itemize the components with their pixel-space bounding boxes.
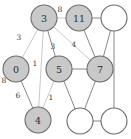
graph-node-unlabeled[interactable]	[101, 5, 127, 31]
graph-edge	[22, 29, 37, 57]
graph-edge	[21, 81, 33, 108]
graph-node-label: 0	[13, 64, 19, 75]
graph-node-unlabeled[interactable]	[67, 108, 93, 134]
graph-node-label: 7	[97, 64, 103, 75]
edge-weight-label: 1	[33, 59, 38, 68]
graph-node-label: 3	[41, 13, 47, 24]
edge-weight-label: 8	[2, 76, 7, 85]
graph-node-unlabeled[interactable]	[101, 108, 127, 134]
graph-node-label: 11	[73, 13, 85, 24]
nodes-layer: 3110574	[3, 5, 127, 134]
graph-edge	[84, 30, 95, 57]
graph-edge	[85, 81, 96, 109]
graph-node-label: 5	[56, 64, 62, 75]
edge-weight-label: 3	[51, 42, 56, 51]
edge-weight-label: 6	[16, 91, 21, 100]
graph-figure: 3110574 83341618	[0, 0, 131, 139]
edge-weight-label: 4	[72, 40, 77, 49]
edge-weight-label: 8	[58, 5, 63, 14]
edge-weight-label: 3	[17, 33, 22, 42]
graph-edge	[39, 31, 43, 107]
edge-weight-label: 1	[49, 93, 54, 102]
graph-edge	[103, 31, 110, 57]
graph-node-label: 4	[35, 115, 41, 126]
graph-edge	[64, 81, 75, 109]
graph-canvas: 3110574 83341618	[0, 0, 131, 139]
